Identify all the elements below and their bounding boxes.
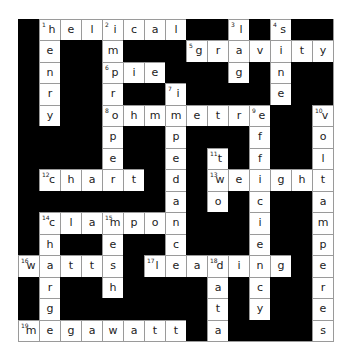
letter-cell[interactable]: f xyxy=(249,126,270,147)
letter-cell[interactable]: m xyxy=(144,105,165,126)
letter-cell[interactable]: a xyxy=(81,212,102,233)
letter-cell[interactable]: y xyxy=(39,105,60,126)
letter-cell[interactable]: r xyxy=(102,169,123,190)
letter-cell[interactable]: m xyxy=(165,105,186,126)
letter-cell[interactable]: 5g xyxy=(186,40,207,61)
letter-cell[interactable]: h xyxy=(102,277,123,298)
letter-cell[interactable]: a xyxy=(207,320,228,341)
letter-cell[interactable]: h xyxy=(39,234,60,255)
letter-cell[interactable]: p xyxy=(165,126,186,147)
letter-cell[interactable]: h xyxy=(291,169,312,190)
letter-cell[interactable]: 14c xyxy=(39,212,60,233)
letter-cell[interactable]: 16w xyxy=(18,255,39,276)
letter-cell[interactable]: a xyxy=(81,169,102,190)
letter-cell[interactable]: n xyxy=(270,62,291,83)
letter-cell[interactable]: e xyxy=(165,148,186,169)
letter-cell[interactable]: 12c xyxy=(39,169,60,190)
letter-cell[interactable]: g xyxy=(228,62,249,83)
letter-cell[interactable]: t xyxy=(207,105,228,126)
letter-cell[interactable]: t xyxy=(81,255,102,276)
letter-cell[interactable]: a xyxy=(165,191,186,212)
letter-cell[interactable]: t xyxy=(144,320,165,341)
letter-cell[interactable]: e xyxy=(39,40,60,61)
letter-cell[interactable]: r xyxy=(39,83,60,104)
letter-cell[interactable]: i xyxy=(123,62,144,83)
letter-cell[interactable]: r xyxy=(312,277,333,298)
letter-cell[interactable]: o xyxy=(207,191,228,212)
letter-cell[interactable]: t xyxy=(165,320,186,341)
letter-cell[interactable]: m xyxy=(312,212,333,233)
letter-cell[interactable]: h xyxy=(123,105,144,126)
letter-cell[interactable]: a xyxy=(81,320,102,341)
letter-cell[interactable]: 7i xyxy=(165,83,186,104)
letter-cell[interactable]: t xyxy=(60,255,81,276)
letter-cell[interactable]: c xyxy=(249,191,270,212)
letter-cell[interactable]: h xyxy=(60,169,81,190)
letter-cell[interactable]: v xyxy=(249,40,270,61)
letter-cell[interactable]: r xyxy=(102,83,123,104)
letter-cell[interactable]: e xyxy=(186,105,207,126)
letter-cell[interactable]: 15m xyxy=(102,212,123,233)
letter-cell[interactable]: a xyxy=(312,191,333,212)
letter-cell[interactable]: l xyxy=(60,212,81,233)
letter-cell[interactable]: y xyxy=(312,40,333,61)
letter-cell[interactable]: o xyxy=(312,126,333,147)
letter-cell[interactable]: y xyxy=(249,298,270,319)
letter-cell[interactable]: 2i xyxy=(102,19,123,40)
letter-cell[interactable]: d xyxy=(165,169,186,190)
letter-cell[interactable]: g xyxy=(39,298,60,319)
letter-cell[interactable]: e xyxy=(270,83,291,104)
letter-cell[interactable]: e xyxy=(228,169,249,190)
letter-cell[interactable]: n xyxy=(39,62,60,83)
letter-cell[interactable]: a xyxy=(39,255,60,276)
letter-cell[interactable]: 6p xyxy=(102,62,123,83)
letter-cell[interactable]: i xyxy=(249,169,270,190)
letter-cell[interactable]: n xyxy=(165,212,186,233)
letter-cell[interactable]: p xyxy=(312,234,333,255)
letter-cell[interactable]: e xyxy=(165,255,186,276)
letter-cell[interactable]: 9e xyxy=(249,105,270,126)
letter-cell[interactable]: 11t xyxy=(207,148,228,169)
letter-cell[interactable]: g xyxy=(60,320,81,341)
letter-cell[interactable]: l xyxy=(312,148,333,169)
letter-cell[interactable]: r xyxy=(39,277,60,298)
letter-cell[interactable]: e xyxy=(102,148,123,169)
letter-cell[interactable]: e xyxy=(144,62,165,83)
letter-cell[interactable]: c xyxy=(249,277,270,298)
letter-cell[interactable]: e xyxy=(60,19,81,40)
letter-cell[interactable]: i xyxy=(270,40,291,61)
letter-cell[interactable]: w xyxy=(102,320,123,341)
letter-cell[interactable]: 18d xyxy=(207,255,228,276)
letter-cell[interactable]: a xyxy=(228,40,249,61)
letter-cell[interactable]: a xyxy=(144,19,165,40)
letter-cell[interactable]: g xyxy=(270,169,291,190)
letter-cell[interactable]: 13w xyxy=(207,169,228,190)
letter-cell[interactable]: t xyxy=(312,169,333,190)
letter-cell[interactable]: e xyxy=(312,255,333,276)
letter-cell[interactable]: t xyxy=(123,169,144,190)
letter-cell[interactable]: i xyxy=(228,255,249,276)
letter-cell[interactable]: r xyxy=(228,105,249,126)
letter-cell[interactable]: 4s xyxy=(270,19,291,40)
letter-cell[interactable]: e xyxy=(312,298,333,319)
letter-cell[interactable]: a xyxy=(123,320,144,341)
letter-cell[interactable]: t xyxy=(207,298,228,319)
letter-cell[interactable]: s xyxy=(102,255,123,276)
letter-cell[interactable]: m xyxy=(102,40,123,61)
letter-cell[interactable]: p xyxy=(102,126,123,147)
letter-cell[interactable]: 10v xyxy=(312,105,333,126)
letter-cell[interactable]: g xyxy=(270,255,291,276)
letter-cell[interactable]: o xyxy=(144,212,165,233)
letter-cell[interactable]: f xyxy=(249,148,270,169)
letter-cell[interactable]: e xyxy=(249,234,270,255)
letter-cell[interactable]: e xyxy=(102,234,123,255)
letter-cell[interactable]: c xyxy=(165,234,186,255)
letter-cell[interactable]: 1h xyxy=(39,19,60,40)
letter-cell[interactable]: e xyxy=(39,320,60,341)
letter-cell[interactable]: 17l xyxy=(144,255,165,276)
letter-cell[interactable]: 19m xyxy=(18,320,39,341)
letter-cell[interactable]: l xyxy=(165,19,186,40)
letter-cell[interactable]: l xyxy=(81,19,102,40)
letter-cell[interactable]: r xyxy=(207,40,228,61)
letter-cell[interactable]: a xyxy=(207,277,228,298)
